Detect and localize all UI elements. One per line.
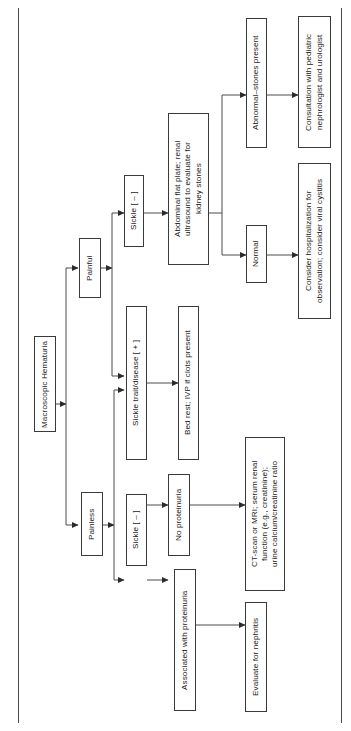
- node-no-proteinuria[interactable]: No proteinuria: [168, 474, 190, 556]
- page-rule-top: [18, 8, 19, 723]
- node-evaluate-for-nephritis[interactable]: Evaluate for nephritis: [245, 602, 267, 712]
- node-sickle-trait-disease-positive[interactable]: Sickle trait/disease [ + ]: [126, 306, 147, 460]
- node-abdominal-flat-plate-renal-ultrasound[interactable]: Abdominal flat plate; renal ultrasound t…: [168, 113, 209, 265]
- node-bed-rest-ivp[interactable]: Bed rest; IVP if clots present: [178, 306, 199, 460]
- node-macroscopic-hematuria[interactable]: Macroscopic Hematuria: [34, 336, 56, 432]
- node-sickle-negative-painless[interactable]: Sickle [ – ]: [126, 494, 147, 566]
- page-rule-bottom: [341, 8, 342, 723]
- flowchart-canvas: Macroscopic Hematuria Painful Painless S…: [0, 0, 351, 731]
- node-normal[interactable]: Normal: [246, 225, 267, 283]
- node-consultation-pediatric-nephrologist-urologist[interactable]: Consultation with pediatric nephrologist…: [298, 16, 331, 148]
- node-ct-scan-mri-serum-renal-function[interactable]: CT-scan or MRI; serum renal function (e.…: [245, 437, 285, 591]
- node-abnormal-stones-present[interactable]: Abnormal–stones present: [246, 18, 267, 148]
- node-consider-hospitalization-viral-cystitis[interactable]: Consider hospitalization for observation…: [298, 163, 331, 319]
- node-sickle-negative-painful[interactable]: Sickle [ – ]: [124, 175, 144, 247]
- node-painless[interactable]: Painless: [81, 492, 103, 556]
- node-painful[interactable]: Painful: [79, 238, 101, 298]
- node-associated-with-proteinuria[interactable]: Associated with proteinuria: [174, 569, 196, 711]
